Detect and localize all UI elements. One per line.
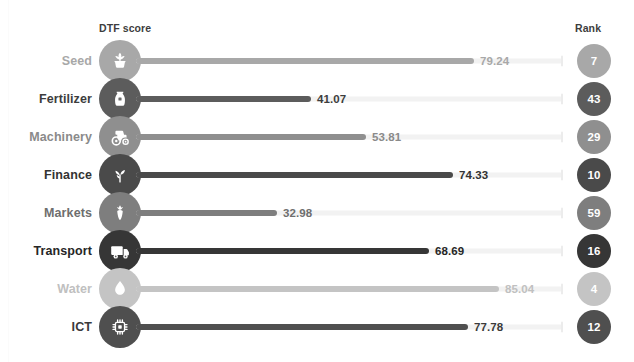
rank-badge: 4 xyxy=(577,272,611,306)
score-value-label: 85.04 xyxy=(505,283,534,295)
rank-badge: 29 xyxy=(577,120,611,154)
chart-row: ICT77.7812 xyxy=(0,308,634,346)
rank-badge: 43 xyxy=(577,82,611,116)
delivery-truck-icon xyxy=(99,230,141,272)
rank-badge: 16 xyxy=(577,234,611,268)
score-track-end-cap xyxy=(561,284,563,295)
score-value-label: 68.69 xyxy=(435,245,464,257)
rank-badge: 59 xyxy=(577,196,611,230)
rank-value: 4 xyxy=(591,283,597,295)
score-bar xyxy=(136,172,453,178)
rank-value: 43 xyxy=(588,93,601,105)
chart-row: Transport68.6916 xyxy=(0,232,634,270)
rank-value: 12 xyxy=(588,321,601,333)
row-label-water: Water xyxy=(57,282,92,296)
rank-value: 7 xyxy=(591,55,597,67)
score-bar xyxy=(136,286,499,292)
water-drop-icon xyxy=(99,268,141,310)
fertilizer-sack-icon xyxy=(99,78,141,120)
score-track-end-cap xyxy=(561,246,563,257)
score-value-label: 79.24 xyxy=(480,55,509,67)
score-value-label: 32.98 xyxy=(283,207,312,219)
score-track-end-cap xyxy=(561,56,563,67)
score-bar xyxy=(136,134,366,140)
row-label-markets: Markets xyxy=(44,206,92,220)
coin-plant-icon xyxy=(99,154,141,196)
chart-row: Water85.044 xyxy=(0,270,634,308)
score-value-label: 74.33 xyxy=(459,169,488,181)
chart-header: DTF score Rank xyxy=(0,22,634,38)
microchip-icon xyxy=(99,306,141,348)
column-header-dtf-score: DTF score xyxy=(99,22,151,34)
score-bar xyxy=(136,96,311,102)
rank-value: 10 xyxy=(588,169,601,181)
score-track-end-cap xyxy=(561,208,563,219)
carrot-produce-icon xyxy=(99,192,141,234)
rank-badge: 12 xyxy=(577,310,611,344)
row-label-seed: Seed xyxy=(62,54,92,68)
row-label-machinery: Machinery xyxy=(29,130,92,144)
chart-row: Fertilizer41.0743 xyxy=(0,80,634,118)
rank-value: 16 xyxy=(588,245,601,257)
score-bar xyxy=(136,324,468,330)
row-label-ict: ICT xyxy=(72,320,92,334)
score-bar xyxy=(136,58,474,64)
rank-badge: 10 xyxy=(577,158,611,192)
score-track-end-cap xyxy=(561,322,563,333)
column-header-rank: Rank xyxy=(575,22,601,34)
row-label-finance: Finance xyxy=(44,168,92,182)
rank-value: 59 xyxy=(588,207,601,219)
seedling-pot-icon xyxy=(99,40,141,82)
chart-row: Seed79.247 xyxy=(0,42,634,80)
dtf-score-chart: DTF score Rank Seed79.247Fertilizer41.07… xyxy=(0,0,634,362)
score-track-end-cap xyxy=(561,170,563,181)
chart-rows: Seed79.247Fertilizer41.0743Machinery53.8… xyxy=(0,42,634,346)
rank-value: 29 xyxy=(588,131,601,143)
score-value-label: 41.07 xyxy=(317,93,346,105)
score-value-label: 77.78 xyxy=(474,321,503,333)
chart-row: Machinery53.8129 xyxy=(0,118,634,156)
score-track-end-cap xyxy=(561,94,563,105)
tractor-icon xyxy=(99,116,141,158)
score-bar xyxy=(136,248,429,254)
score-track-end-cap xyxy=(561,132,563,143)
rank-badge: 7 xyxy=(577,44,611,78)
row-label-transport: Transport xyxy=(33,244,92,258)
score-value-label: 53.81 xyxy=(372,131,401,143)
score-bar xyxy=(136,210,277,216)
row-label-fertilizer: Fertilizer xyxy=(39,92,92,106)
chart-row: Markets32.9859 xyxy=(0,194,634,232)
chart-row: Finance74.3310 xyxy=(0,156,634,194)
